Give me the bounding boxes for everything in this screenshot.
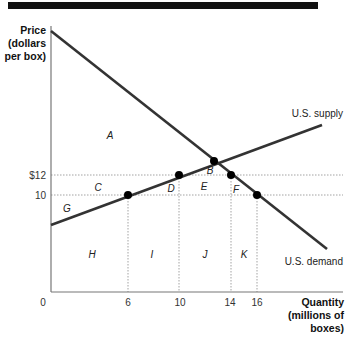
y-axis-title-line2: (dollars <box>8 37 46 49</box>
x-axis-title-line2: (millions of <box>288 309 345 321</box>
x-axis-title-line3: boxes) <box>310 322 344 334</box>
y-axis-title-line3: per box) <box>5 50 46 62</box>
region-j-label: J <box>202 249 209 260</box>
demand-label: U.S. demand <box>285 256 343 267</box>
point-supply-12 <box>175 171 183 179</box>
x-tick-6: 6 <box>125 297 131 308</box>
y-tick-10: 10 <box>35 190 47 201</box>
x-axis-title-line1: Quantity <box>301 296 344 308</box>
supply-demand-chart: Price (dollars per box) $12 10 0 6 10 14… <box>0 0 356 346</box>
region-c-label: C <box>94 182 102 193</box>
region-b-label: B <box>207 165 214 176</box>
marked-points <box>124 157 261 199</box>
point-equilibrium <box>210 157 218 165</box>
region-h-label: H <box>88 249 96 260</box>
region-g-label: G <box>63 203 71 214</box>
region-i-label: I <box>151 249 154 260</box>
region-k-label: K <box>241 249 249 260</box>
supply-label: U.S. supply <box>292 108 343 119</box>
y-axis-title-line1: Price <box>20 24 46 36</box>
y-tick-12: $12 <box>29 170 46 181</box>
point-supply-10 <box>124 191 132 199</box>
region-d-label: D <box>167 183 174 194</box>
region-e-label: E <box>201 181 208 192</box>
point-demand-12 <box>227 171 235 179</box>
point-demand-10 <box>253 191 261 199</box>
x-tick-14: 14 <box>224 297 236 308</box>
demand-curve <box>51 31 327 249</box>
region-f-label: F <box>233 184 240 195</box>
supply-curve <box>51 125 322 225</box>
x-tick-0: 0 <box>40 297 46 308</box>
x-tick-10: 10 <box>174 297 186 308</box>
x-tick-16: 16 <box>251 297 263 308</box>
region-a-label: A <box>106 130 114 141</box>
